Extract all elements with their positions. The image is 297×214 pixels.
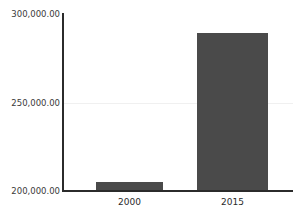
x-tick-label-2015: 2015 xyxy=(197,196,268,208)
x-tick-label-2000: 2000 xyxy=(96,196,163,208)
bar-2015[interactable] xyxy=(197,33,268,191)
x-axis-line xyxy=(62,190,293,192)
y-tick-label-300000: 300,000.00 xyxy=(0,9,60,19)
y-axis-ticks: 300,000.00 250,000.00 200,000.00 xyxy=(0,0,60,214)
y-tick-label-200000: 200,000.00 xyxy=(0,186,60,196)
bar-chart: 300,000.00 250,000.00 200,000.00 2000 20… xyxy=(0,0,297,214)
plot-area xyxy=(63,14,293,191)
y-axis-line xyxy=(62,13,64,192)
y-tick-label-250000: 250,000.00 xyxy=(0,98,60,108)
